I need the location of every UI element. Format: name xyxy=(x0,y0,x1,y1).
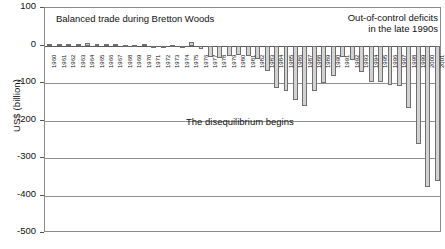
y-axis-tick-label: -300 xyxy=(0,151,36,161)
bar xyxy=(85,43,90,46)
bar xyxy=(142,44,147,46)
bar xyxy=(331,46,336,76)
bar xyxy=(378,46,383,82)
bar xyxy=(57,44,62,46)
y-axis-tick-mark xyxy=(40,232,44,233)
out-of-control-note: Out-of-control deficits in the late 1990… xyxy=(318,12,438,34)
bar xyxy=(416,46,421,145)
y-axis-tick-label: -400 xyxy=(0,189,36,199)
bar xyxy=(47,44,52,46)
bar xyxy=(350,46,355,61)
bar xyxy=(113,44,118,46)
bar xyxy=(170,45,175,47)
bar xyxy=(161,46,166,48)
bar xyxy=(359,46,364,72)
bar xyxy=(255,46,260,60)
y-axis-tick-label: 100 xyxy=(0,1,36,11)
bar xyxy=(246,46,251,57)
bar xyxy=(208,46,213,58)
bar xyxy=(123,45,128,47)
bar xyxy=(274,46,279,88)
bar xyxy=(435,46,440,182)
bar xyxy=(227,46,232,57)
y-axis-tick-label: -500 xyxy=(0,226,36,236)
disequilibrium-note: The disequilibrium begins xyxy=(186,116,294,127)
bar xyxy=(217,46,222,59)
bar xyxy=(425,46,430,188)
y-axis-tick-label: 0 xyxy=(0,39,36,49)
bar xyxy=(189,42,194,45)
bar xyxy=(95,44,100,46)
bar xyxy=(104,44,109,46)
bar xyxy=(76,44,81,46)
bar xyxy=(265,46,270,71)
bar xyxy=(340,46,345,58)
bar xyxy=(132,45,137,47)
bar xyxy=(66,44,71,46)
bar xyxy=(302,46,307,106)
bar xyxy=(406,46,411,108)
bar xyxy=(312,46,317,91)
bar xyxy=(284,46,289,92)
bar xyxy=(397,46,402,87)
bar xyxy=(321,46,326,84)
y-axis-tick-label: -200 xyxy=(0,114,36,124)
bar xyxy=(236,46,241,55)
bar xyxy=(199,46,204,49)
y-axis-tick-label: -100 xyxy=(0,76,36,86)
bar xyxy=(180,46,185,48)
bar xyxy=(293,46,298,100)
bar xyxy=(388,46,393,85)
bar xyxy=(151,46,156,48)
balanced-trade-note: Balanced trade during Bretton Woods xyxy=(56,13,214,24)
bar xyxy=(369,46,374,83)
